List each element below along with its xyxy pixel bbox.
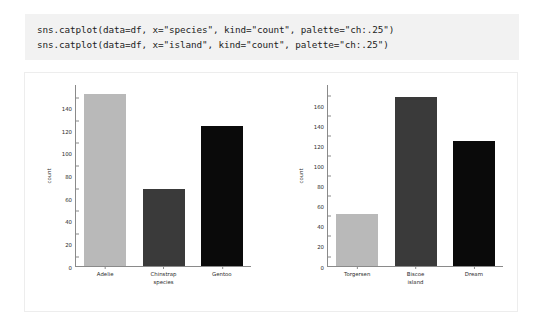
y-axis-tick-label: 120 bbox=[62, 128, 76, 134]
x-axis-tick: Biscoe bbox=[407, 266, 425, 277]
y-axis-tick: 60 bbox=[317, 196, 328, 215]
y-axis-tick: 40 bbox=[65, 211, 76, 230]
y-axis-tick-mark bbox=[76, 188, 79, 189]
y-axis-tick-mark bbox=[328, 256, 331, 257]
bar-torgersen bbox=[336, 214, 378, 266]
y-axis-tick-mark bbox=[76, 98, 79, 99]
y-axis-tick-label: 160 bbox=[314, 103, 328, 109]
x-axis-tick-mark bbox=[222, 266, 223, 269]
x-axis-tick-label: Biscoe bbox=[407, 271, 425, 277]
code-line-1: sns.catplot(data=df, x="species", kind="… bbox=[37, 22, 507, 37]
code-line-2: sns.catplot(data=df, x="island", kind="c… bbox=[37, 37, 507, 52]
y-axis-tick-mark bbox=[328, 155, 331, 156]
y-axis-tick-label: 80 bbox=[317, 184, 328, 190]
y-axis-tick-label: 0 bbox=[321, 264, 328, 270]
y-axis-tick: 20 bbox=[65, 234, 76, 253]
y-axis-tick-mark bbox=[76, 256, 79, 257]
y-axis-tick-mark bbox=[76, 166, 79, 167]
y-axis-tick: 120 bbox=[62, 121, 76, 140]
y-axis-tick: 0 bbox=[321, 257, 328, 276]
x-axis-label: species bbox=[153, 279, 173, 285]
x-axis-tick: Dream bbox=[465, 266, 483, 277]
bar-chinstrap bbox=[143, 189, 185, 266]
y-axis-tick-mark bbox=[76, 143, 79, 144]
figure-output-frame: 020406080100120140countAdelieChinstrapGe… bbox=[24, 72, 518, 312]
x-axis-tick: Chinstrap bbox=[151, 266, 177, 277]
x-axis-tick-mark bbox=[474, 266, 475, 269]
x-axis-tick: Torgersen bbox=[344, 266, 370, 277]
x-axis-tick-mark bbox=[357, 266, 358, 269]
x-axis-tick-label: Chinstrap bbox=[151, 271, 177, 277]
y-axis-tick: 80 bbox=[65, 166, 76, 185]
y-axis-tick-mark bbox=[328, 115, 331, 116]
y-axis-tick-label: 60 bbox=[65, 196, 76, 202]
y-axis-tick: 80 bbox=[317, 176, 328, 195]
y-axis-tick: 140 bbox=[62, 98, 76, 117]
y-axis-tick: 160 bbox=[314, 96, 328, 115]
x-axis-tick-mark bbox=[416, 266, 417, 269]
bar-biscoe bbox=[395, 97, 437, 266]
chart-panel-island: 020406080100120140160countTorgersenBisco… bbox=[283, 73, 511, 313]
bar-dream bbox=[453, 141, 495, 266]
x-axis-tick: Gentoo bbox=[212, 266, 232, 277]
y-axis-tick-label: 20 bbox=[317, 244, 328, 250]
y-axis-tick-label: 140 bbox=[314, 123, 328, 129]
y-axis-tick-mark bbox=[328, 176, 331, 177]
y-axis-tick-mark bbox=[328, 216, 331, 217]
y-axis-tick-label: 20 bbox=[65, 241, 76, 247]
y-axis-tick: 0 bbox=[69, 257, 76, 276]
code-block: sns.catplot(data=df, x="species", kind="… bbox=[25, 14, 519, 60]
x-axis-tick-label: Dream bbox=[465, 271, 483, 277]
x-axis-tick: Adelie bbox=[97, 266, 114, 277]
x-axis-tick-mark bbox=[164, 266, 165, 269]
x-axis-label: island bbox=[408, 279, 424, 285]
y-axis-tick-mark bbox=[328, 236, 331, 237]
x-axis-tick-label: Torgersen bbox=[344, 271, 370, 277]
y-axis-tick-label: 140 bbox=[62, 106, 76, 112]
y-axis-tick: 100 bbox=[314, 156, 328, 175]
chart-panel-species: 020406080100120140countAdelieChinstrapGe… bbox=[31, 73, 259, 313]
y-axis-tick-label: 0 bbox=[69, 264, 76, 270]
y-axis-tick-label: 120 bbox=[314, 143, 328, 149]
bar-gentoo bbox=[201, 126, 243, 266]
y-axis-tick-label: 80 bbox=[65, 174, 76, 180]
y-axis-tick-mark bbox=[328, 135, 331, 136]
y-axis-tick-label: 40 bbox=[65, 219, 76, 225]
y-axis-tick: 40 bbox=[317, 216, 328, 235]
y-axis-tick-mark bbox=[328, 196, 331, 197]
y-axis-label: count bbox=[298, 168, 304, 183]
plot-area-island: 020406080100120140160countTorgersenBisco… bbox=[327, 85, 503, 267]
y-axis-tick: 120 bbox=[314, 136, 328, 155]
y-axis-tick: 20 bbox=[317, 236, 328, 255]
y-axis-tick-mark bbox=[328, 95, 331, 96]
y-axis-label: count bbox=[46, 168, 52, 183]
y-axis-tick-mark bbox=[76, 211, 79, 212]
y-axis-tick: 140 bbox=[314, 116, 328, 135]
y-axis-tick: 100 bbox=[62, 143, 76, 162]
x-axis-tick-label: Adelie bbox=[97, 271, 114, 277]
y-axis-tick-label: 40 bbox=[317, 224, 328, 230]
x-axis-tick-mark bbox=[105, 266, 106, 269]
y-axis-tick-mark bbox=[76, 233, 79, 234]
y-axis-tick-label: 100 bbox=[314, 163, 328, 169]
bar-adelie bbox=[84, 94, 126, 266]
plot-area-species: 020406080100120140countAdelieChinstrapGe… bbox=[75, 85, 251, 267]
y-axis-tick: 60 bbox=[65, 189, 76, 208]
y-axis-tick-mark bbox=[76, 120, 79, 121]
y-axis-tick-label: 60 bbox=[317, 204, 328, 210]
y-axis-tick-label: 100 bbox=[62, 151, 76, 157]
x-axis-tick-label: Gentoo bbox=[212, 271, 232, 277]
